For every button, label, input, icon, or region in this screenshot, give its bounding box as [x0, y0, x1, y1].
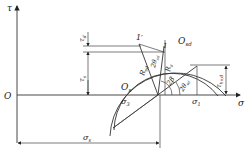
- radius-sd-label: Rsd: [138, 64, 150, 78]
- tau-d-label: τd: [78, 35, 87, 42]
- lower-chord: [113, 95, 158, 128]
- radius-s-label: Rs: [164, 63, 174, 74]
- tau-s-label: τs: [78, 75, 87, 82]
- origin-label: O: [4, 91, 12, 101]
- inner-circle-label: Os: [121, 82, 131, 93]
- tau-hvd-label: τhv,d: [215, 75, 224, 88]
- angle-2theta-d-label: 2θsd: [149, 54, 161, 70]
- sigma-axis-label: σ: [238, 98, 245, 108]
- sigma1-label: σ1: [192, 97, 201, 107]
- point-1-label: 1: [163, 42, 167, 50]
- point-1prime-label: 1′: [136, 33, 143, 42]
- sigma3-label: σ3: [121, 97, 130, 107]
- radius-s-line: [158, 46, 164, 95]
- sigma-s-label: σs: [83, 133, 91, 143]
- mohr-circle-diagram: τ σ O 1′ 1 Osd Os Rsd Rs 2θsd 2β: [0, 0, 248, 153]
- angle-2beta-label: 2β: [165, 76, 177, 88]
- tau-axis-label: τ: [7, 3, 13, 13]
- outer-circle-label: Osd: [178, 36, 192, 47]
- chord-1prime-1: [139, 44, 164, 52]
